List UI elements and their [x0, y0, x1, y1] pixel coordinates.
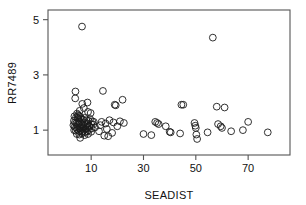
- data-point: [219, 125, 226, 132]
- data-point: [119, 96, 126, 103]
- data-point: [79, 23, 86, 30]
- x-axis-label: SEADIST: [144, 189, 193, 201]
- data-point: [228, 128, 235, 135]
- data-point: [100, 88, 107, 95]
- scatter-plot-figure: 10305070135 SEADIST RR7489: [0, 0, 306, 205]
- y-axis-label: RR7489: [6, 62, 18, 104]
- data-point: [204, 129, 211, 136]
- data-point: [72, 95, 79, 102]
- data-point: [240, 127, 247, 134]
- y-tick-label: 1: [33, 124, 39, 136]
- data-point: [209, 34, 216, 41]
- data-point: [177, 130, 184, 137]
- data-point: [264, 129, 271, 136]
- data-point: [221, 104, 228, 111]
- x-tick-label: 10: [85, 162, 97, 174]
- x-tick-label: 30: [137, 162, 149, 174]
- x-tick-label: 70: [242, 162, 254, 174]
- data-point: [148, 132, 155, 139]
- data-point: [120, 120, 127, 127]
- plot-canvas: 10305070135 SEADIST RR7489: [0, 0, 306, 205]
- y-tick-label: 5: [33, 14, 39, 26]
- data-point: [72, 88, 79, 95]
- data-point: [213, 103, 220, 110]
- data-point: [245, 118, 252, 125]
- data-point: [110, 119, 117, 126]
- y-tick-label: 3: [33, 69, 39, 81]
- data-point: [140, 131, 147, 138]
- x-tick-label: 50: [190, 162, 202, 174]
- data-point: [194, 136, 201, 143]
